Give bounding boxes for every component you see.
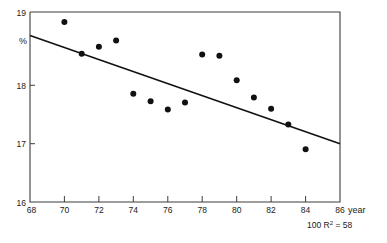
data-point — [165, 107, 171, 113]
data-point-group — [61, 19, 308, 152]
data-point — [234, 77, 240, 83]
data-point — [199, 51, 205, 57]
data-point — [96, 44, 102, 50]
x-axis-ticks — [64, 196, 305, 202]
y-tick-label-16: 16 — [17, 198, 27, 208]
x-tick-label-68: 68 — [27, 205, 37, 215]
x-tick-label-76: 76 — [163, 205, 173, 215]
x-tick-label-84: 84 — [301, 205, 311, 215]
plot-frame — [30, 12, 340, 202]
y-tick-label-19: 19 — [17, 8, 27, 18]
regression-line — [30, 35, 340, 143]
r-squared-value: = 58 — [333, 220, 352, 230]
x-tick-label-82: 82 — [266, 205, 276, 215]
x-tick-label-80: 80 — [232, 205, 242, 215]
data-point — [216, 53, 222, 59]
x-tick-label-74: 74 — [129, 205, 139, 215]
data-point — [113, 38, 119, 44]
x-tick-label-72: 72 — [94, 205, 104, 215]
y-tick-label-18: 18 — [17, 81, 27, 91]
x-tick-label-78: 78 — [197, 205, 207, 215]
data-point — [182, 100, 188, 106]
x-axis-unit-label: year — [348, 205, 366, 215]
x-axis-tick-labels: 68 70 72 74 76 78 80 82 84 86 — [27, 205, 345, 215]
x-tick-label-86: 86 — [335, 205, 345, 215]
r-squared-annotation: 100 R2 = 58 — [307, 220, 352, 230]
data-point — [303, 146, 309, 152]
data-point — [61, 19, 67, 25]
data-point — [268, 106, 274, 112]
data-point — [148, 98, 154, 104]
data-point — [130, 91, 136, 97]
scatter-plot: 19 18 17 16 % 68 70 72 74 76 78 80 8 — [0, 0, 387, 243]
y-axis-unit-label: % — [19, 36, 27, 46]
data-point — [251, 95, 257, 101]
x-tick-label-70: 70 — [60, 205, 70, 215]
y-axis-ticks — [30, 85, 35, 143]
r-squared-prefix: 100 R — [307, 220, 330, 230]
data-point — [285, 122, 291, 128]
chart-figure: 19 18 17 16 % 68 70 72 74 76 78 80 8 — [0, 0, 387, 243]
y-tick-label-17: 17 — [17, 139, 27, 149]
data-point — [79, 51, 85, 57]
